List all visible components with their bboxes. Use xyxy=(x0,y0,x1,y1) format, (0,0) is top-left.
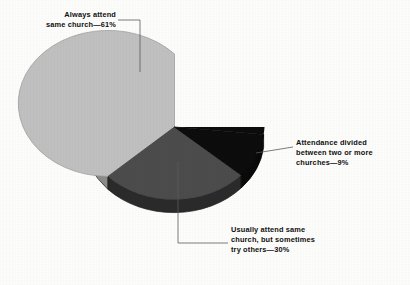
slice-label-always-attend: Always attend same church—61% xyxy=(8,10,116,30)
pie-top-face xyxy=(18,30,264,199)
pie-chart: Always attend same church—61% Attendance… xyxy=(0,0,410,285)
slice-label-attendance-divided: Attendance divided between two or more c… xyxy=(296,138,404,169)
slice-label-usually-attend: Usually attend same church, but sometime… xyxy=(231,225,347,256)
